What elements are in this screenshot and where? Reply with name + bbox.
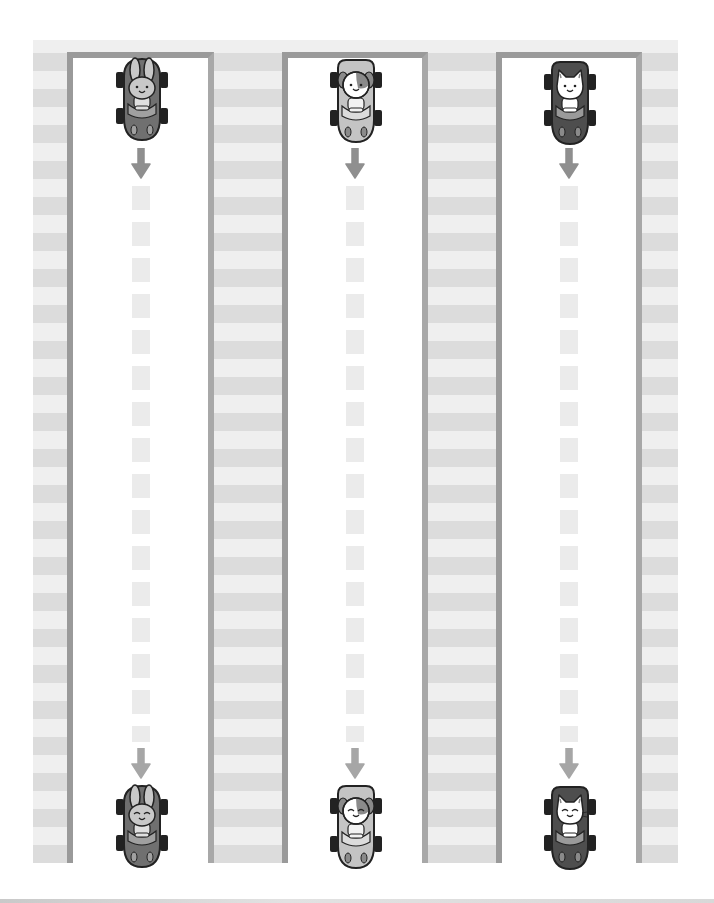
arrow-down-icon: [345, 148, 365, 180]
arrow-down-icon: [131, 148, 151, 180]
bottom-edge-line: [0, 899, 714, 903]
bunny-car-icon[interactable]: [114, 56, 170, 142]
arrow-down-icon: [559, 748, 579, 780]
arrow-down-icon: [131, 748, 151, 780]
stripe-strip-right: [640, 53, 678, 863]
puppy-car-icon[interactable]: [328, 784, 384, 870]
dashed-path-lane-3[interactable]: [560, 186, 578, 742]
worksheet-scene: Three vertical lanes, each with an anima…: [0, 0, 714, 903]
bunny-car-icon[interactable]: [114, 783, 170, 869]
stripe-strip-middle-2: [426, 53, 500, 863]
kitten-car-icon[interactable]: [542, 785, 598, 871]
kitten-car-icon[interactable]: [542, 60, 598, 146]
arrow-down-icon: [559, 148, 579, 180]
stripe-strip-middle-1: [212, 53, 286, 863]
arrow-down-icon: [345, 748, 365, 780]
puppy-car-icon[interactable]: [328, 58, 384, 144]
dashed-path-lane-2[interactable]: [346, 186, 364, 742]
dashed-path-lane-1[interactable]: [132, 186, 150, 742]
